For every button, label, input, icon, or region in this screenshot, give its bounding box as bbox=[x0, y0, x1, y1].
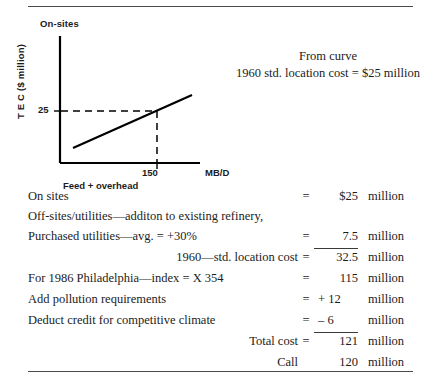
cost-row-description: 1960—std. location cost bbox=[176, 247, 298, 268]
cost-row-equals-sign: = bbox=[300, 247, 312, 268]
cost-row-equals-sign: = bbox=[300, 331, 312, 352]
cost-row-unit: million bbox=[368, 268, 404, 289]
cost-row-value: 32.5 bbox=[314, 247, 358, 268]
cost-row-description: Deduct credit for competitive climate bbox=[28, 310, 215, 331]
onsites-chart-figure: On-sites T E C ($ million) 25 150 MB/D F… bbox=[0, 12, 441, 190]
cost-row: For 1986 Philadelphia—index = X 354=115m… bbox=[28, 268, 418, 289]
cost-breakdown-table: On sites=$25millionOff-sites/utilities—a… bbox=[28, 186, 418, 373]
cost-row-equals-sign: = bbox=[300, 310, 312, 331]
bottom-horizontal-rule bbox=[28, 371, 413, 372]
cost-row-equals-sign: = bbox=[300, 226, 312, 247]
cost-row-equals-sign: = bbox=[300, 268, 312, 289]
y-tick-label-25: 25 bbox=[38, 104, 49, 115]
chart-annotation: From curve 1960 std. location cost = $25… bbox=[218, 48, 438, 82]
cost-row-description: Total cost bbox=[249, 331, 298, 352]
cost-row: Call120million bbox=[28, 352, 418, 373]
cost-row-equals-sign: = bbox=[300, 186, 312, 207]
annotation-line-1: From curve bbox=[218, 48, 438, 65]
cost-row-unit: million bbox=[368, 331, 404, 352]
x-axis-unit-label: MB/D bbox=[205, 167, 229, 178]
cost-row-value: $25 bbox=[314, 186, 358, 207]
top-horizontal-rule bbox=[28, 6, 413, 7]
cost-row: On sites=$25million bbox=[28, 186, 418, 207]
cost-row-value: 7.5 bbox=[314, 226, 358, 249]
cost-row-unit: million bbox=[368, 289, 404, 310]
cost-row-value: 121 bbox=[314, 331, 358, 352]
cost-row-description: Call bbox=[277, 352, 298, 373]
cost-row-description: Add pollution requirements bbox=[28, 289, 166, 310]
cost-row-description: On sites bbox=[28, 186, 69, 207]
cost-row-value: + 12 bbox=[314, 289, 362, 310]
cost-row: Deduct credit for competitive climate=– … bbox=[28, 310, 418, 331]
cost-row-value: 115 bbox=[314, 268, 358, 289]
cost-row: Add pollution requirements=+ 12million bbox=[28, 289, 418, 310]
cost-row-unit: million bbox=[368, 310, 404, 331]
y-axis-label: T E C ($ million) bbox=[15, 34, 26, 130]
chart-plot-svg bbox=[0, 12, 441, 190]
cost-row-description: For 1986 Philadelphia—index = X 354 bbox=[28, 268, 224, 289]
cost-row-description: Off-sites/utilities—additon to existing … bbox=[28, 207, 263, 226]
cost-row: Total cost=121million bbox=[28, 331, 418, 352]
chart-data-line bbox=[73, 95, 192, 148]
cost-row-unit: million bbox=[368, 226, 404, 247]
x-tick-label-150: 150 bbox=[142, 167, 158, 178]
cost-row-unit: million bbox=[368, 186, 404, 207]
cost-row: Off-sites/utilities—additon to existing … bbox=[28, 207, 418, 226]
cost-row-unit: million bbox=[368, 352, 404, 373]
cost-row-value: 120 bbox=[314, 352, 358, 373]
annotation-line-2: 1960 std. location cost = $25 million bbox=[218, 65, 438, 82]
cost-row-unit: million bbox=[368, 247, 404, 268]
document-page: On-sites T E C ($ million) 25 150 MB/D F… bbox=[0, 0, 441, 390]
cost-row-value: – 6 bbox=[314, 310, 358, 333]
cost-row-equals-sign: = bbox=[300, 289, 312, 310]
cost-row: Purchased utilities—avg. = +30%=7.5milli… bbox=[28, 226, 418, 247]
cost-row: 1960—std. location cost=32.5million bbox=[28, 247, 418, 268]
cost-row-description: Purchased utilities—avg. = +30% bbox=[28, 226, 197, 247]
